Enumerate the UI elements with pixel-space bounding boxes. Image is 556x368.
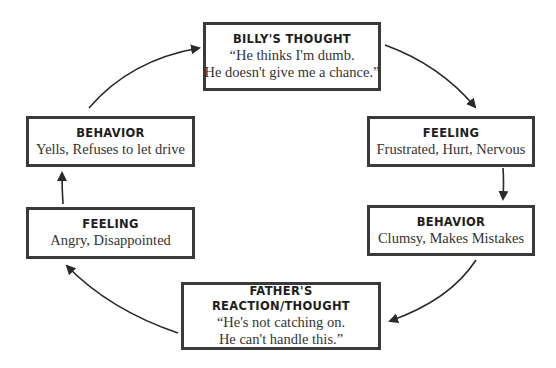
arrow-behavior-to-father (390, 260, 476, 321)
node-text-line: “He thinks I'm dumb. (229, 47, 354, 64)
node-title: BEHAVIOR (76, 126, 145, 141)
arrow-behavior-to-thought (89, 48, 199, 108)
node-text-line: Frustrated, Hurt, Nervous (376, 141, 525, 158)
node-billy-behavior: BEHAVIOR Clumsy, Makes Mistakes (367, 205, 535, 256)
node-title: FATHER'S REACTION/THOUGHT (184, 284, 378, 314)
node-text-line: He can't handle this.” (219, 331, 343, 348)
node-billys-thought: BILLY'S THOUGHT “He thinks I'm dumb. He … (203, 22, 381, 91)
node-text-line: He doesn't give me a chance.” (205, 64, 380, 81)
node-text-line: Yells, Refuses to let drive (36, 141, 185, 158)
node-text-line: “He's not catching on. (217, 314, 345, 331)
arrow-feeling-to-behavior-left (62, 173, 63, 204)
node-title: BILLY'S THOUGHT (233, 32, 351, 47)
node-text-line: Angry, Disappointed (50, 232, 171, 249)
arrow-thought-to-feeling (385, 45, 475, 107)
node-text-line: Clumsy, Makes Mistakes (378, 230, 524, 247)
arrow-father-to-feeling (67, 266, 178, 333)
node-billy-feeling: FEELING Frustrated, Hurt, Nervous (367, 116, 535, 167)
node-father-behavior: BEHAVIOR Yells, Refuses to let drive (26, 116, 195, 167)
node-title: FEELING (82, 217, 138, 232)
node-title: BEHAVIOR (417, 215, 486, 230)
node-father-feeling: FEELING Angry, Disappointed (26, 207, 195, 259)
node-title: FEELING (423, 126, 479, 141)
arrow-feeling-to-behavior (503, 168, 504, 199)
node-father-reaction: FATHER'S REACTION/THOUGHT “He's not catc… (181, 282, 381, 350)
